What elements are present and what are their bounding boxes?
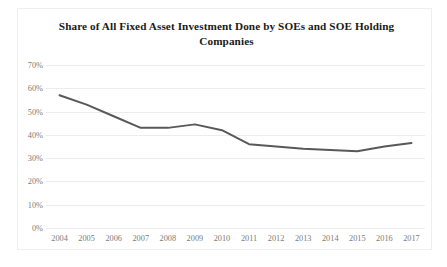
chart-figure: Share of All Fixed Asset Investment Done… [17,8,432,250]
x-axis-tick-label: 2011 [241,234,257,243]
y-axis-tick-label: 20% [28,177,43,186]
gridline [46,112,425,113]
x-axis-tick-label: 2005 [78,234,95,243]
y-axis-tick-label: 30% [28,154,43,163]
y-axis-tick-label: 70% [28,61,43,70]
y-axis-tick-label: 0% [32,224,43,233]
gridline [46,65,425,66]
gridline [46,205,425,206]
chart-title: Share of All Fixed Asset Investment Done… [54,19,399,49]
gridline [46,228,425,229]
gridline [46,181,425,182]
x-axis-tick-label: 2010 [214,234,231,243]
x-axis-tick-label: 2013 [295,234,312,243]
y-axis-tick-label: 60% [28,84,43,93]
gridline [46,158,425,159]
chart-title-line-1: Share of All Fixed Asset Investment Done… [59,20,352,32]
x-axis-tick-label: 2004 [51,234,68,243]
y-axis-tick-label: 10% [28,200,43,209]
x-axis-tick-label: 2015 [349,234,366,243]
x-axis-tick-label: 2014 [322,234,339,243]
gridline [46,88,425,89]
x-axis-tick-label: 2016 [376,234,393,243]
x-axis-tick-label: 2008 [160,234,177,243]
x-axis-tick-label: 2007 [132,234,149,243]
gridline [46,135,425,136]
x-axis-tick-label: 2009 [187,234,204,243]
x-axis-tick-label: 2017 [403,234,420,243]
x-axis-tick-label: 2012 [268,234,285,243]
x-axis-tick-label: 2006 [105,234,122,243]
y-axis-tick-label: 40% [28,130,43,139]
cut-off-caption [18,260,428,267]
y-axis-tick-label: 50% [28,107,43,116]
